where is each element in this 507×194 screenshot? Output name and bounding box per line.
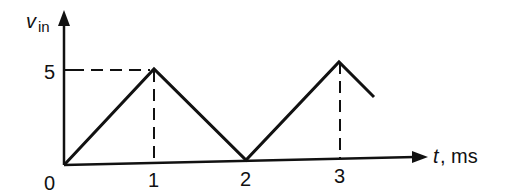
x-axis-label-var: t (433, 145, 440, 167)
y-axis-arrow-icon (58, 10, 70, 26)
y-axis-label-sub: in (38, 18, 50, 35)
x-tick-label-2: 2 (240, 168, 251, 190)
x-axis (64, 157, 415, 165)
x-tick-label-1: 1 (148, 169, 159, 191)
x-tick-label-3: 3 (334, 165, 345, 187)
y-tick-label-5: 5 (44, 61, 55, 83)
x-axis-label-unit: , ms (440, 145, 478, 167)
y-axis-label-var: v (26, 10, 37, 32)
x-axis-arrow-icon (412, 151, 428, 163)
triangle-wave-line (65, 62, 374, 164)
origin-label: 0 (44, 172, 55, 194)
waveform-chart: v in 5 0 1 2 3 t , ms (0, 0, 507, 194)
